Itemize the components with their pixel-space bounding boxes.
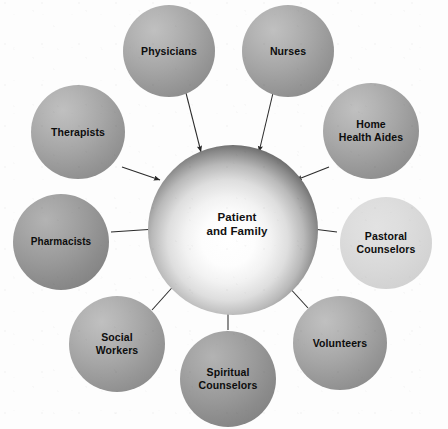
node-volunteers-label: Volunteers (309, 337, 371, 350)
node-spiritual-counselors-label-line2: Counselors (199, 379, 258, 392)
node-nurses-label: Nurses (266, 45, 310, 58)
node-pastoral-counselors[interactable]: Pastoral Counselors (340, 197, 432, 289)
arrow-nurses-to-hub (259, 93, 273, 152)
node-spiritual-counselors[interactable]: Spiritual Counselors (180, 331, 276, 427)
node-volunteers-label-line1: Volunteers (313, 337, 367, 350)
node-nurses[interactable]: Nurses (242, 5, 334, 97)
care-team-diagram: Patient and Family Physicians Nurses Hom… (0, 0, 448, 429)
node-therapists[interactable]: Therapists (31, 85, 125, 179)
node-pharmacists-label-line1: Pharmacists (31, 236, 92, 248)
node-nurses-label-line1: Nurses (270, 45, 306, 58)
node-pastoral-counselors-label-line2: Counselors (357, 243, 416, 256)
node-spiritual-counselors-label-line1: Spiritual (199, 366, 258, 379)
node-home-health-aides-label-line2: Health Aides (339, 131, 403, 144)
node-social-workers-label: Social Workers (92, 331, 143, 356)
node-home-health-aides[interactable]: Home Health Aides (323, 83, 419, 179)
node-social-workers-label-line1: Social (96, 331, 139, 344)
node-pharmacists-label: Pharmacists (27, 236, 96, 248)
node-therapists-label: Therapists (47, 126, 109, 139)
node-volunteers[interactable]: Volunteers (293, 296, 387, 390)
arrow-therapists-to-hub (122, 167, 160, 180)
node-home-health-aides-label: Home Health Aides (335, 118, 407, 143)
node-physicians-label-line1: Physicians (141, 45, 197, 58)
node-pastoral-counselors-label: Pastoral Counselors (353, 230, 420, 255)
arrow-physicians-to-hub (186, 93, 201, 152)
hub-patient-and-family[interactable]: Patient and Family (148, 145, 318, 315)
node-pharmacists[interactable]: Pharmacists (13, 194, 109, 290)
node-physicians-label: Physicians (137, 45, 201, 58)
node-social-workers-label-line2: Workers (96, 344, 139, 357)
node-social-workers[interactable]: Social Workers (69, 296, 165, 392)
node-pastoral-counselors-label-line1: Pastoral (357, 230, 416, 243)
hub-label-line1: Patient (206, 210, 267, 224)
hub-label-line2: and Family (206, 224, 267, 238)
node-physicians[interactable]: Physicians (123, 5, 215, 97)
node-therapists-label-line1: Therapists (51, 126, 105, 139)
hub-label: Patient and Family (206, 210, 267, 238)
node-spiritual-counselors-label: Spiritual Counselors (195, 366, 262, 391)
node-home-health-aides-label-line1: Home (339, 118, 403, 131)
